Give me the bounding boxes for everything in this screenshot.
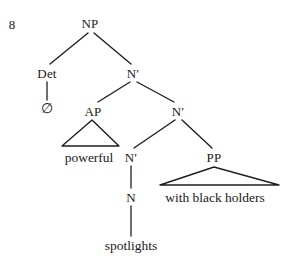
node-n-head: N: [126, 191, 136, 204]
example-number: 8: [9, 18, 16, 31]
edge-nbar-mid-to-nbar-low: [134, 120, 175, 148]
node-det: Det: [37, 67, 56, 80]
tree-edges-svg: [0, 0, 286, 274]
terminal-null-determiner: ∅: [41, 102, 53, 116]
node-nbar-mid: N′: [172, 105, 185, 118]
syntax-tree-figure: 8 NP Det N′ ∅ AP N′ powerful N′ PP N wit…: [0, 0, 286, 274]
pp-triangle: [160, 167, 279, 185]
edge-nbar-mid-to-pp: [182, 120, 212, 148]
edge-np-to-nbar-top: [94, 33, 131, 64]
ap-triangle: [62, 120, 119, 146]
node-np: NP: [81, 17, 98, 30]
terminal-spotlights: spotlights: [105, 239, 158, 253]
node-pp: PP: [207, 151, 222, 164]
node-ap: AP: [84, 105, 101, 118]
node-nbar-top: N′: [127, 67, 140, 80]
node-nbar-low: N′: [125, 151, 138, 164]
edge-np-to-det: [50, 33, 88, 64]
edge-nbar-top-to-nbar-mid: [137, 82, 174, 102]
edge-nbar-top-to-ap: [98, 82, 130, 102]
terminal-powerful: powerful: [65, 151, 114, 165]
terminal-with-black-holders: with black holders: [165, 191, 265, 205]
